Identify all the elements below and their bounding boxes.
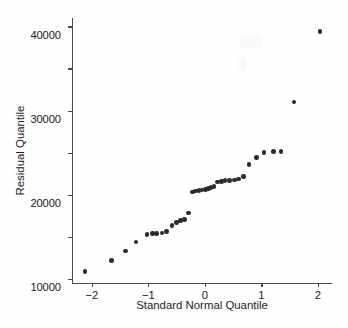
data-point xyxy=(186,211,191,216)
y-tick-mark: 0 xyxy=(68,195,72,196)
y-tick-label: 10000 xyxy=(30,281,61,293)
data-point xyxy=(212,184,217,189)
x-tick-mark xyxy=(148,283,149,287)
data-point xyxy=(241,174,246,179)
data-point xyxy=(164,229,169,234)
x-tick-mark xyxy=(205,283,206,287)
y-tick-mark: 20000 xyxy=(68,111,72,112)
x-tick-mark xyxy=(261,283,262,287)
x-tick-label: −2 xyxy=(85,289,98,301)
data-point xyxy=(182,217,187,222)
data-point xyxy=(83,269,88,274)
x-tick-mark xyxy=(92,283,93,287)
y-tick-mark: −10000 xyxy=(68,237,72,238)
data-point xyxy=(154,231,159,236)
data-point xyxy=(123,249,128,254)
y-axis-line xyxy=(72,18,73,283)
y-tick-mark: 40000 xyxy=(68,26,72,27)
y-axis-title: Residual Quantile xyxy=(14,18,32,283)
y-tick-mark: 10000 xyxy=(68,153,72,154)
y-tick-mark: −20000 xyxy=(68,279,72,280)
data-point xyxy=(254,155,259,160)
data-point xyxy=(292,100,297,105)
x-tick-label: −1 xyxy=(142,289,155,301)
data-point xyxy=(271,149,276,154)
x-tick-label: 0 xyxy=(202,289,208,301)
plot-area: −20000−10000010000200003000040000 −2−101… xyxy=(72,18,332,283)
data-point xyxy=(279,149,284,154)
y-tick-label: 30000 xyxy=(30,113,61,125)
qq-plot-figure: Residual Quantile Standard Normal Quanti… xyxy=(0,0,348,328)
data-point xyxy=(145,232,150,237)
data-point xyxy=(109,258,114,263)
y-tick-label: 20000 xyxy=(30,197,61,209)
x-axis-line xyxy=(72,283,332,284)
x-tick-label: 2 xyxy=(315,289,321,301)
data-point xyxy=(318,29,323,34)
data-point xyxy=(247,162,252,167)
y-tick-mark: 30000 xyxy=(68,68,72,69)
data-point xyxy=(262,150,267,155)
y-tick-label: 40000 xyxy=(30,29,61,41)
x-tick-label: 1 xyxy=(258,289,264,301)
x-tick-mark xyxy=(318,283,319,287)
data-point xyxy=(134,240,139,245)
